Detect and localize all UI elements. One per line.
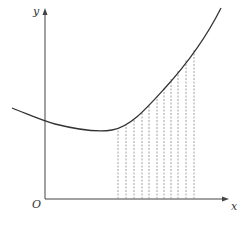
y-axis-label: y (32, 5, 40, 18)
x-axis-label: x (231, 200, 238, 213)
x-axis-arrow-icon (222, 197, 229, 202)
function-curve (12, 8, 221, 131)
origin-label: O (32, 198, 41, 211)
y-axis-arrow-icon (43, 8, 48, 15)
strip-lines (118, 50, 194, 199)
diagram-canvas: y x O (0, 0, 239, 227)
